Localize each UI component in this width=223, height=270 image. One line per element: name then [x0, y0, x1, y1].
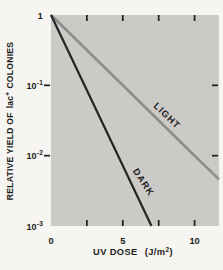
uv-survival-chart: 0510 1 10-1 10-2 10-3 LIGHT DARK UV DOSE… [0, 0, 223, 270]
uv-survival-figure: 0510 1 10-1 10-2 10-3 LIGHT DARK UV DOSE… [0, 0, 223, 270]
y-axis-title-gene-sup: + [4, 92, 11, 96]
y-tick-label-1: 1 [38, 11, 43, 21]
y-tick-1e-1-base: 10 [26, 81, 36, 91]
x-tick-label-0: 0 [48, 236, 53, 246]
y-axis-title-post: COLONIES [5, 42, 15, 89]
y-tick-1e-3-base: 10 [26, 222, 36, 232]
y-axis-title: RELATIVE YIELD OFlac+COLONIES [4, 42, 15, 201]
y-axis-title-pre: RELATIVE YIELD OF [5, 112, 15, 200]
y-tick-1e-3-exp: -3 [37, 220, 43, 227]
y-tick-1-base: 1 [38, 11, 43, 21]
y-tick-1e-1-exp: -1 [37, 79, 43, 86]
y-axis-title-gene: lac [5, 96, 15, 109]
y-tick-label-1e-3: 10-3 [26, 220, 43, 232]
y-tick-1e-2-exp: -2 [37, 149, 43, 156]
x-tick-label-10: 10 [189, 236, 199, 246]
x-tick-labels: 0510 [48, 236, 199, 246]
x-axis-title: UV DOSE(J/m2) [93, 246, 173, 258]
x-axis-title-unit-open: (J/m [145, 247, 166, 257]
y-tick-label-1e-2: 10-2 [26, 149, 43, 161]
plot-area [51, 15, 219, 226]
x-axis-title-main: UV DOSE [93, 247, 138, 257]
x-axis-title-unit-close: ) [169, 247, 173, 257]
y-tick-1e-2-base: 10 [26, 151, 36, 161]
y-tick-label-1e-1: 10-1 [26, 79, 43, 91]
x-tick-label-5: 5 [120, 236, 125, 246]
